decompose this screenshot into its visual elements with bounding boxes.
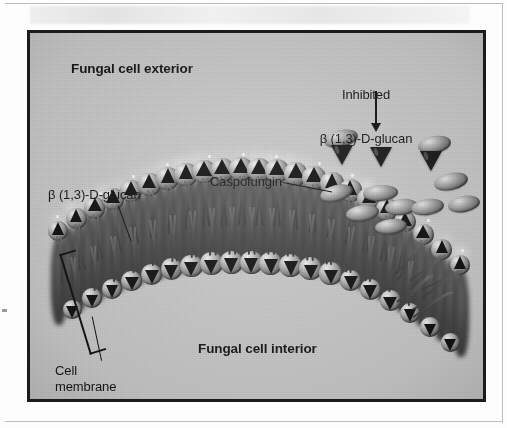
- label-inhibited-line1: Inhibited: [301, 88, 431, 103]
- glucan-highlight-speck: [132, 175, 135, 178]
- lipid-tail: [184, 181, 193, 230]
- membrane-core-segment: [292, 179, 308, 273]
- membrane-core-segment: [322, 186, 338, 279]
- beta-glucan-cone: [344, 276, 358, 290]
- caspofungin-molecule: [345, 203, 380, 223]
- lipid-inner: [299, 257, 322, 280]
- lipid-outer: [174, 163, 197, 186]
- lipid-tail: [202, 178, 208, 227]
- label-inhibited-line2: β (1,3)-D-glucan: [301, 132, 431, 147]
- membrane-core-segment: [192, 176, 208, 271]
- membrane-core-segment: [383, 215, 399, 306]
- lipid-tail: [412, 291, 449, 318]
- label-fungal-cell-interior: Fungal cell interior: [198, 341, 317, 356]
- lipid-tail: [366, 205, 368, 253]
- lipid-outer: [394, 211, 416, 233]
- caspofungin-molecule: [374, 217, 407, 235]
- glucan-highlight-speck: [242, 153, 245, 156]
- glucan-layer-haze: [38, 203, 78, 229]
- membrane-core-segment: [353, 199, 369, 291]
- beta-glucan-cone: [233, 158, 249, 173]
- lipid-tail: [165, 185, 174, 233]
- glucan-layer-haze: [115, 161, 155, 187]
- glucan-layer-haze: [131, 156, 171, 182]
- glucan-highlight-speck: [427, 219, 430, 222]
- membrane-core-segment: [121, 196, 137, 288]
- glucan-layer-haze: [177, 144, 217, 170]
- membrane-core-segment: [433, 252, 449, 341]
- membrane-core-segment: [423, 244, 439, 333]
- arrow-inhibited-glucan-head: [371, 123, 381, 132]
- beta-glucan-cone: [416, 225, 430, 238]
- bracket-cell-membrane: [54, 244, 123, 356]
- lipid-tail: [399, 275, 430, 310]
- glucan-highlight-speck: [461, 249, 464, 252]
- lipid-head: [138, 173, 161, 196]
- lipid-inner: [121, 271, 142, 292]
- lipid-head: [259, 252, 282, 275]
- glucan-layer-haze: [409, 211, 449, 237]
- lipid-outer: [431, 239, 452, 260]
- lipid-head: [340, 270, 362, 292]
- lipid-inner: [441, 333, 460, 352]
- glucan-layer-haze: [208, 141, 248, 167]
- lipid-tail: [132, 197, 135, 245]
- beta-glucan-cone: [204, 260, 218, 274]
- lipid-outer: [138, 173, 161, 196]
- lipid-outer: [48, 221, 68, 241]
- lipid-tail: [344, 196, 354, 243]
- beta-glucan-cone: [224, 258, 238, 273]
- lipid-tail: [267, 208, 275, 255]
- lipid-head: [400, 303, 420, 323]
- lipid-tail: [409, 254, 441, 290]
- lipid-head: [240, 251, 263, 274]
- beta-glucan-cone: [424, 324, 436, 336]
- beta-glucan-cone: [324, 270, 338, 284]
- caspofungin-molecule: [410, 197, 445, 217]
- lipid-head: [394, 211, 416, 233]
- lipid-tail: [348, 227, 351, 273]
- lipid-head: [441, 333, 460, 352]
- membrane-core-segment: [403, 229, 419, 319]
- figure-frame: Fungal cell exterior Fungal cell interio…: [27, 30, 486, 402]
- lipid-head: [380, 290, 401, 311]
- lipid-outer: [357, 188, 380, 211]
- membrane-core-segment: [413, 236, 429, 326]
- page-rule-bottom: [5, 421, 502, 422]
- glucan-highlight-speck: [56, 215, 59, 218]
- membrane-core-segment: [111, 200, 127, 292]
- beta-glucan-cone: [184, 262, 198, 276]
- lipid-tail: [129, 227, 139, 273]
- membrane-core-segment: [363, 204, 379, 295]
- lipid-tail: [309, 214, 314, 261]
- lipid-inner: [400, 303, 420, 323]
- beta-glucan-cone: [161, 168, 175, 183]
- glucan-layer-haze: [239, 142, 279, 168]
- lipid-tail: [189, 210, 197, 257]
- caspofungin-molecule: [362, 184, 398, 202]
- lipid-tail: [209, 208, 215, 255]
- lipid-tail: [152, 220, 156, 266]
- beta-glucan-cone: [244, 258, 258, 273]
- lipid-tail: [113, 236, 116, 282]
- beta-glucan-cone: [142, 174, 156, 188]
- lipid-head: [48, 221, 68, 241]
- lipid-head: [431, 239, 452, 260]
- lipid-head: [339, 179, 362, 202]
- beta-glucan-cone: [145, 270, 159, 284]
- lipid-head: [450, 255, 470, 275]
- lipid-head: [420, 317, 440, 337]
- label-inhibited-glucan: Inhibited β (1,3)-D-glucan: [301, 58, 431, 177]
- lipid-head: [141, 264, 162, 285]
- label-beta-glucan: β (1,3)-D-glucan: [48, 188, 141, 203]
- beta-glucan-cone: [444, 339, 456, 351]
- beta-glucan-cone: [70, 209, 82, 222]
- beta-glucan-cone: [179, 164, 193, 179]
- lipid-head: [357, 188, 380, 211]
- scanned-page: Fungal cell exterior Fungal cell interio…: [0, 0, 507, 428]
- beta-glucan-cone: [304, 265, 318, 279]
- lipid-head: [279, 254, 302, 277]
- lipid-tail: [169, 215, 178, 262]
- beta-glucan-cone: [164, 265, 178, 279]
- lipid-tail: [291, 181, 300, 230]
